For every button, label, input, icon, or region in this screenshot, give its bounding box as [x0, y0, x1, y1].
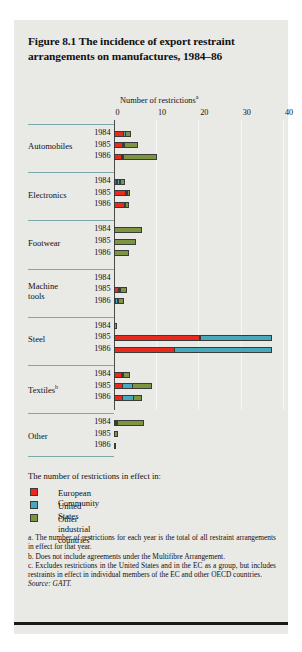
category-label-text: Electronics — [28, 190, 67, 200]
x-tick-label-40: 40 — [285, 108, 293, 117]
bar-segment-united-states — [200, 335, 272, 341]
bar-automobiles-1984 — [114, 131, 132, 137]
bar-automobiles-1985 — [114, 142, 138, 148]
figure-inner: Figure 8.1 The incidence of export restr… — [14, 20, 288, 634]
bar-segment-other-industrial-countries — [133, 395, 141, 401]
bar-footwear-1986 — [114, 250, 129, 256]
year-label-steel-1984: 1984 — [87, 321, 111, 330]
legend-swatch-icon — [30, 514, 38, 522]
bar-footwear-1985 — [114, 239, 136, 245]
x-axis-title: Number of restrictionsa — [120, 94, 199, 105]
legend-swatch-icon — [30, 488, 38, 496]
category-label-textiles: Textilesb — [28, 382, 86, 395]
group-separator — [28, 124, 114, 125]
bar-segment-other-industrial-countries — [125, 131, 131, 137]
bar-segment-european-community — [114, 190, 127, 196]
category-label-text: Other — [28, 431, 48, 441]
year-label-textiles-1986: 1986 — [87, 392, 111, 401]
bar-segment-other-industrial-countries — [114, 239, 136, 245]
bar-segment-other-industrial-countries — [114, 431, 119, 437]
bar-steel-1986 — [114, 347, 272, 353]
category-label-note: b — [55, 384, 58, 390]
year-label-textiles-1984: 1984 — [87, 369, 111, 378]
category-label-text: Textiles — [28, 385, 55, 395]
bar-other-1985 — [114, 431, 119, 437]
year-label-footwear-1985: 1985 — [87, 236, 111, 245]
category-label-machine-tools: Machinetools — [28, 281, 86, 301]
group-separator — [28, 317, 114, 318]
bar-segment-other-industrial-countries — [114, 250, 129, 256]
category-label-steel: Steel — [28, 334, 86, 344]
x-tick-label-0: 0 — [116, 108, 120, 117]
gridline-30 — [241, 120, 242, 410]
bar-steel-1985 — [114, 335, 272, 341]
year-label-electronics-1984: 1984 — [87, 176, 111, 185]
bar-segment-european-community — [114, 347, 175, 353]
year-label-steel-1986: 1986 — [87, 344, 111, 353]
figure-note-2: b. Does not include agreements under the… — [28, 552, 276, 561]
bar-segment-other-industrial-countries — [117, 420, 145, 426]
figure-note-1: a. The number of restrictions for each y… — [28, 533, 276, 551]
figure-panel: Figure 8.1 The incidence of export restr… — [14, 20, 288, 634]
category-label-text: Automobiles — [28, 141, 72, 151]
year-label-other-1985: 1985 — [87, 429, 111, 438]
x-axis-title-note: a — [196, 94, 199, 100]
x-tick-label-30: 30 — [243, 108, 251, 117]
bar-segment-other-industrial-countries — [125, 202, 129, 208]
x-tick-label-10: 10 — [158, 108, 166, 117]
year-label-other-1986: 1986 — [87, 440, 111, 449]
legend-swatch-icon — [30, 501, 38, 509]
bar-machine-tools-1985 — [114, 287, 128, 293]
year-label-electronics-1985: 1985 — [87, 188, 111, 197]
bar-segment-united-states — [174, 347, 271, 353]
gridline-20 — [198, 120, 199, 410]
x-axis-title-text: Number of restrictions — [120, 96, 196, 105]
bar-other-1986 — [114, 443, 117, 449]
bar-segment-united-states — [114, 323, 117, 329]
figure-notes: a. The number of restrictions for each y… — [28, 533, 276, 588]
bottom-rule — [14, 622, 288, 625]
bar-textiles-1985 — [114, 383, 152, 389]
bar-electronics-1984 — [114, 179, 126, 185]
bar-segment-european-community — [114, 335, 201, 341]
year-label-other-1984: 1984 — [87, 417, 111, 426]
bar-segment-other-industrial-countries — [120, 287, 128, 293]
category-label-text: Machine — [28, 281, 58, 291]
figure-page: Figure 8.1 The incidence of export restr… — [0, 0, 302, 652]
category-label-text: Steel — [28, 334, 45, 344]
bar-segment-other-industrial-countries — [132, 383, 151, 389]
axis-zero-line — [114, 120, 115, 410]
year-label-machine-tools-1984: 1984 — [87, 273, 111, 282]
bar-segment-other-industrial-countries — [127, 190, 130, 196]
year-label-footwear-1986: 1986 — [87, 248, 111, 257]
bar-segment-other-industrial-countries — [114, 227, 143, 233]
group-separator — [28, 269, 114, 270]
category-label-footwear: Footwear — [28, 238, 86, 248]
bar-segment-other-industrial-countries — [123, 372, 130, 378]
bar-other-1984 — [114, 420, 145, 426]
bar-segment-other-industrial-countries — [123, 154, 157, 160]
figure-title: Figure 8.1 The incidence of export restr… — [28, 34, 276, 64]
bar-textiles-1984 — [114, 372, 130, 378]
bar-segment-other-industrial-countries — [120, 179, 126, 185]
x-tick-label-20: 20 — [200, 108, 208, 117]
category-label-text-line2: tools — [28, 291, 86, 301]
year-label-electronics-1986: 1986 — [87, 199, 111, 208]
bar-footwear-1984 — [114, 227, 143, 233]
figure-note-3: c. Excludes restrictions in the United S… — [28, 561, 276, 579]
category-label-other: Other — [28, 431, 86, 441]
category-label-electronics: Electronics — [28, 190, 86, 200]
gridline-40 — [283, 120, 284, 410]
group-separator — [28, 365, 114, 366]
bar-machine-tools-1986 — [114, 298, 124, 304]
bar-steel-1984 — [114, 323, 117, 329]
bar-segment-other-industrial-countries — [118, 298, 124, 304]
bar-segment-other-industrial-countries — [124, 142, 138, 148]
year-label-steel-1985: 1985 — [87, 332, 111, 341]
year-label-machine-tools-1986: 1986 — [87, 296, 111, 305]
year-label-automobiles-1984: 1984 — [87, 128, 111, 137]
category-label-automobiles: Automobiles — [28, 141, 86, 151]
chart-plot-area: 010203040198419851986Automobiles19841985… — [14, 108, 288, 408]
bar-electronics-1985 — [114, 190, 131, 196]
legend-heading: The number of restrictions in effect in: — [28, 471, 161, 481]
